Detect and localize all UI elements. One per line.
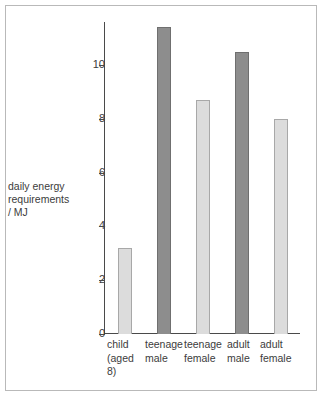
x-axis-label-line: 8) bbox=[107, 365, 134, 379]
y-axis-title-line-1: daily energy bbox=[8, 180, 88, 193]
x-axis-label-line: female bbox=[184, 352, 222, 366]
bar-chart: daily energy requirements / MJ 0246810 c… bbox=[0, 0, 322, 403]
x-axis-label-line: adult bbox=[260, 338, 292, 352]
bar-adult-female bbox=[274, 119, 288, 334]
y-axis-title-line-2: requirements bbox=[8, 193, 88, 206]
x-axis-label-adult-male: adultmale bbox=[227, 338, 250, 365]
bar-adult-male bbox=[235, 52, 249, 334]
x-axis-label-teenage-male: teenagemale bbox=[145, 338, 183, 365]
x-axis-label-line: adult bbox=[227, 338, 250, 352]
bar-slot bbox=[183, 22, 222, 334]
x-axis-label-line: male bbox=[145, 352, 183, 366]
x-axis-label-line: teenage bbox=[184, 338, 222, 352]
x-axis-label-adult-female: adultfemale bbox=[260, 338, 292, 365]
bar-teenage-female bbox=[196, 100, 210, 334]
y-axis-title-line-3: / MJ bbox=[8, 206, 88, 219]
chart-page: daily energy requirements / MJ 0246810 c… bbox=[0, 0, 322, 403]
x-axis-label-line: female bbox=[260, 352, 292, 366]
bar-slot bbox=[105, 22, 144, 334]
bar-group bbox=[105, 22, 300, 334]
y-axis-title: daily energy requirements / MJ bbox=[8, 180, 88, 219]
bar-teenage-male bbox=[157, 27, 171, 334]
x-axis-label-teenage-female: teenagefemale bbox=[184, 338, 222, 365]
bar-slot bbox=[261, 22, 300, 334]
bar-slot bbox=[144, 22, 183, 334]
x-axis-label-line: child bbox=[107, 338, 134, 352]
y-tick-mark bbox=[99, 334, 105, 335]
bar-slot bbox=[222, 22, 261, 334]
x-axis-label-line: teenage bbox=[145, 338, 183, 352]
x-axis-labels: child(aged8)teenagemaleteenagefemaleadul… bbox=[105, 338, 300, 394]
x-axis-label-line: male bbox=[227, 352, 250, 366]
x-axis-label-line: (aged bbox=[107, 352, 134, 366]
bar-child-aged-8- bbox=[118, 248, 132, 334]
x-axis-label-child-aged-8-: child(aged8) bbox=[107, 338, 134, 379]
